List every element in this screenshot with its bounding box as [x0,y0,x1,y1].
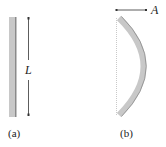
buckled-rod [119,18,144,115]
dimension-tick-top [28,17,30,20]
deflection-label: A [150,3,159,17]
deflection-tick-right [145,9,147,11]
straight-rod [9,17,16,117]
caption-b: (b) [120,127,133,140]
panel-a: L (a) [8,17,32,140]
buckling-diagram: L (a) A (b) [0,0,166,147]
caption-a: (a) [8,127,21,140]
length-label: L [24,63,32,77]
straight-rod-edge [15,17,17,117]
dimension-tick-bottom [28,114,30,117]
panel-b: A (b) [116,3,160,140]
deflection-tick-left [116,9,118,11]
